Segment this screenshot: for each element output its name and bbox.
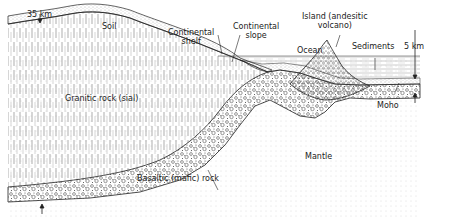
label-island-line2: volcano) [302,21,368,30]
label-continental-shelf: Continental shelf [168,28,214,46]
label-continental-shelf-line2: shelf [168,37,214,46]
label-moho: Moho [377,101,399,110]
label-5km: 5 km [404,42,424,51]
label-island-line1: Island (andesitic [302,12,368,21]
label-ocean: Ocean [297,46,323,55]
label-mantle: Mantle [305,152,332,161]
label-soil: Soil [102,22,116,31]
label-continental-slope: Continental slope [233,22,279,40]
label-granitic-rock: Granitic rock (sial) [65,94,138,103]
label-35km: 35 km [27,10,52,19]
label-island: Island (andesitic volcano) [302,12,368,30]
cross-section-diagram [0,0,451,221]
label-continental-slope-line2: slope [233,31,279,40]
label-sediments: Sediments [352,42,394,51]
label-continental-shelf-line1: Continental [168,28,214,37]
label-basaltic-rock: Basaltic (mafic) rock [137,174,219,183]
label-continental-slope-line1: Continental [233,22,279,31]
